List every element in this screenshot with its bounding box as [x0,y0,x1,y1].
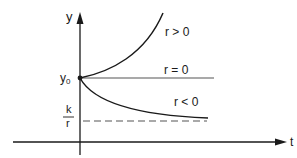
t-axis-label: t [290,135,294,149]
curve-label-r-zero: r = 0 [164,63,189,77]
diagram-canvas: y t y0 k r r > 0 r = 0 r < 0 [0,0,297,158]
asymptote-label-numerator: k [66,103,72,115]
curve-label-r-positive: r > 0 [165,25,190,39]
y-axis-arrow-icon [77,12,84,24]
asymptote-label-denominator: r [66,117,70,129]
curve-r-positive [80,13,163,78]
initial-value-label: y0 [60,71,71,86]
initial-point-marker [78,76,83,81]
curve-label-r-negative: r < 0 [174,95,199,109]
y-axis-label: y [66,9,73,24]
t-axis-arrow-icon [275,139,287,146]
